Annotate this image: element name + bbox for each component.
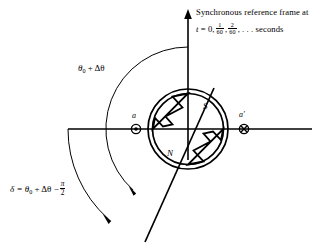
delta-theta-subscript: 0 bbox=[29, 189, 32, 195]
fraction-one-sixtieth: 160 bbox=[216, 22, 224, 36]
two-denominator: 2 bbox=[60, 189, 66, 197]
pole-label-south: S bbox=[203, 101, 208, 111]
up-arrow-icon bbox=[184, 9, 192, 19]
delta-equation-middle: + Δθ − bbox=[35, 184, 59, 194]
machine-angle-diagram bbox=[0, 0, 336, 246]
delta-angle-label: δ = θ0 + Δθ −π2 bbox=[10, 180, 66, 196]
delta-equation-prefix: δ = θ bbox=[10, 184, 29, 194]
caption-fraction-separator: , bbox=[225, 24, 227, 34]
delta-arc bbox=[68, 129, 108, 218]
fraction-pi-over-two: π2 bbox=[60, 180, 66, 196]
fraction-two-sixtieths: 260 bbox=[228, 22, 236, 36]
pole-label-north: N bbox=[167, 148, 173, 158]
caption-line-1-text: Synchronous reference frame at bbox=[196, 7, 309, 17]
delta-arc-arrowhead-icon bbox=[103, 214, 112, 224]
conductor-a-prime-label: a′ bbox=[239, 110, 245, 119]
conductor-a-label: a bbox=[132, 111, 136, 120]
theta-subscript: 0 bbox=[82, 68, 85, 74]
theta-arc bbox=[106, 47, 188, 190]
caption-line-2: t = 0,160,260, . . . seconds bbox=[196, 22, 284, 36]
theta-arc-arrowhead-icon bbox=[129, 186, 137, 196]
caption-time-eq: = 0, bbox=[201, 24, 215, 34]
theta-angle-label: θ0 + Δθ bbox=[78, 63, 105, 75]
caption-time-symbol: t bbox=[196, 24, 199, 34]
caption-line-1: Synchronous reference frame at bbox=[196, 8, 309, 18]
theta-delta-term: + Δθ bbox=[88, 63, 105, 73]
fraction-2-denominator: 60 bbox=[228, 29, 236, 35]
fraction-1-denominator: 60 bbox=[216, 29, 224, 35]
conductor-a-dot-icon bbox=[134, 127, 138, 131]
caption-line-2-suffix: , . . . seconds bbox=[238, 24, 284, 34]
